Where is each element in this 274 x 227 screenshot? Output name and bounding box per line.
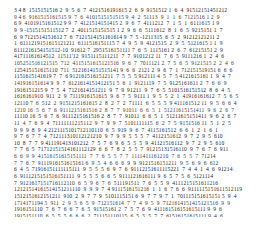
text-row: 7 7 6 7 9111916151615161 6 9 5 4 6 6 6 9… bbox=[14, 160, 262, 167]
text-row: 6 9 4101915161512 9 9 7 4121514151415 2 … bbox=[14, 20, 262, 27]
text-row: 10 8 7 7 9 411191413101212 7 5 7 6 9 6 5… bbox=[14, 140, 262, 147]
text-row: 7 9121617151716112110 6 5 9 6 7 6 511191… bbox=[14, 180, 262, 187]
text-row: 9 7 6 7 7 4 712111310112121210 9 7 9 9 5… bbox=[14, 133, 262, 140]
text-row: 105251516121515 712 4115151615121516 9 6… bbox=[14, 60, 262, 67]
text-row: 1714171194 5 911 2 9 5 6 5 9 712151614 7… bbox=[14, 200, 262, 207]
text-row: 6 9 7121514151612 7 6 7121514151161614 9… bbox=[14, 34, 262, 41]
text-row: 1210 16 5 6 7 6 9111215161516 2 8 7 7 91… bbox=[14, 107, 262, 114]
text-row: 1916151215 9 7 5 4 7121614151211 9 7 9 9… bbox=[14, 87, 262, 94]
text-row: 6 4 5 71916151111115111 9 5 5 5 6 9 7 6 … bbox=[14, 166, 262, 173]
text-row: 7 7 6 5 71712151514161112129 6 6 7 8 2 5… bbox=[14, 146, 262, 153]
text-row: 125415151615110 711 5121614151515141 9 6… bbox=[14, 67, 262, 74]
text-row: 9 4 6 9161515161515 9 7 6 4101515151515 … bbox=[14, 14, 262, 21]
text-row: 12110 7 6 512 2 9151215161615 2 8 2 7 2 … bbox=[14, 100, 262, 107]
text-row: 141916151614 9 9 7 6121614151412151 5 6 … bbox=[14, 80, 262, 87]
text-row: 6 6 9 9 41516151615151111 7 7 6 5 5 7 7 … bbox=[14, 153, 262, 160]
text-row: 41711161614512 11511'12 9151115111211 7 … bbox=[14, 53, 262, 60]
text-row: 12121514161514151211110 9 9 9 7 4 911151… bbox=[14, 186, 262, 193]
page-root: 3 4 8 1515151516 2 9 5 6 7 4121516191615… bbox=[0, 0, 274, 227]
text-row: 1915151110 6 5 5 5 6 6 6 2 711151110115 … bbox=[14, 213, 262, 217]
text-row: 1151615141619 7 7 6 912161516151211 7 5 … bbox=[14, 73, 262, 80]
text-row: 9 9 -1515151511512 7 2 4011515151515 1 2… bbox=[14, 27, 262, 34]
text-row: 1512151612151211 910 2 9 7 7 9 510111515… bbox=[14, 193, 262, 200]
text-row: 9 9 9 8 9 4 2121115101712110110 6 5 919 … bbox=[14, 127, 262, 134]
text-row: 6111216154151512-10 91612 7 295151615111… bbox=[14, 47, 262, 54]
text-row: 6 9111215151516151111 9 5 5 5 6 6 5 9111… bbox=[14, 173, 262, 180]
text-row: 3 4 8 1515151516 2 9 5 6 7 4121516191615… bbox=[14, 7, 262, 14]
text-row: 11110 16 5 6 7 6 9111215161516 2 8 7 7 9… bbox=[14, 113, 262, 120]
text-row: 11 4 7 6 9 4 71111111215112 9 7 9 9 7 51… bbox=[14, 120, 262, 127]
text-row: 1 6111219151615121211 6111516151115 7 4 … bbox=[14, 40, 262, 47]
numeric-text-block: 3 4 8 1515151516 2 9 5 6 7 4121516191615… bbox=[14, 7, 262, 217]
text-row: 1916151110 7 6 7 6 6 7 6 5 91515161 2 7 … bbox=[14, 206, 262, 213]
text-row: 1616161910 911 2 9 7111916151615 9 6 7 5… bbox=[14, 93, 262, 100]
